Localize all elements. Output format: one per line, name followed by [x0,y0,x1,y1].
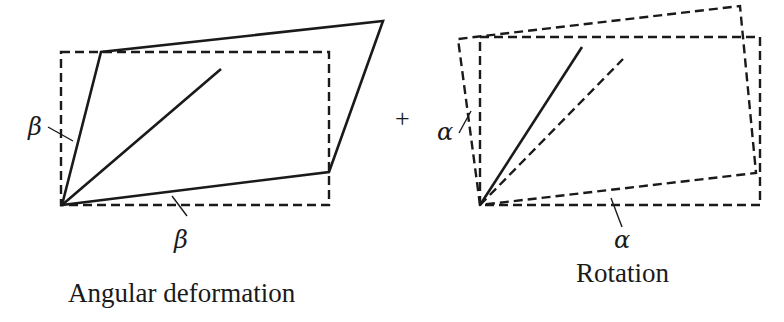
alpha-left-label: α [437,118,453,146]
alpha-bottom-label: α [614,226,630,254]
deformation-diagram: β β Angular deformation + α α Rotation [0,0,784,322]
beta-bottom-label: β [173,226,188,254]
angular-deformation-caption: Angular deformation [68,278,296,308]
rotation-panel: α α Rotation [437,6,760,288]
original-rectangle-dashed [61,52,329,205]
original-diagonal-dashed [480,59,623,205]
beta-left-label: β [27,113,42,141]
alpha-bottom-leader [611,198,622,227]
angular-deformation-panel: β β Angular deformation [27,21,383,308]
rotation-caption: Rotation [576,258,669,288]
rotated-diagonal [480,47,582,205]
deformed-diagonal [62,69,221,205]
plus-operator: + [395,104,410,133]
deformed-parallelogram [62,21,383,205]
